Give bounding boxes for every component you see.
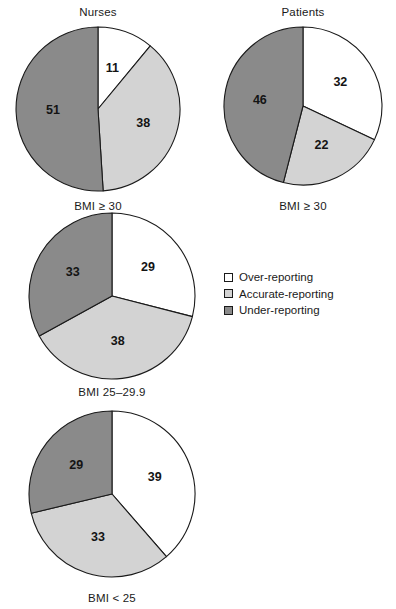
pie-slice-value: 11 bbox=[106, 61, 119, 75]
pie-chart-figure: Nurses 113851 BMI ≥ 30 Patients 322246 B… bbox=[0, 0, 396, 609]
chart-title-nurses: Nurses bbox=[8, 6, 188, 18]
chart-caption-patients: BMI ≥ 30 bbox=[218, 200, 388, 212]
pie-svg-bmi-under-25: 393329 bbox=[28, 410, 196, 578]
pie-slices-bmi-under-25 bbox=[29, 411, 195, 577]
legend-label-accurate-reporting: Accurate-reporting bbox=[239, 288, 334, 300]
chart-caption-bmi-25-29-9: BMI 25–29.9 bbox=[22, 386, 202, 398]
chart-patients-bmi-30-plus: Patients 322246 BMI ≥ 30 bbox=[218, 6, 388, 212]
pie-slice-value: 32 bbox=[333, 75, 347, 89]
chart-title-patients: Patients bbox=[218, 6, 388, 18]
legend-label-over-reporting: Over-reporting bbox=[239, 271, 313, 283]
pie-slices-bmi-25-29-9 bbox=[29, 213, 195, 379]
pie-svg-nurses: 113851 bbox=[15, 26, 181, 192]
pie-svg-bmi-25-29-9: 293833 bbox=[28, 212, 196, 380]
pie-slice-value: 51 bbox=[46, 103, 60, 117]
pie-slice-value: 22 bbox=[315, 138, 329, 152]
chart-nurses-bmi-30-plus: Nurses 113851 BMI ≥ 30 bbox=[8, 6, 188, 212]
legend-item-under-reporting: Under-reporting bbox=[224, 304, 334, 316]
pie-slice-value: 46 bbox=[253, 93, 267, 107]
legend-item-over-reporting: Over-reporting bbox=[224, 271, 334, 283]
pie-bmi-under-25: 393329 bbox=[28, 410, 196, 578]
legend-swatch-accurate-reporting bbox=[224, 289, 233, 298]
pie-slice-value: 29 bbox=[141, 260, 155, 274]
chart-legend: Over-reporting Accurate-reporting Under-… bbox=[224, 271, 334, 316]
chart-bmi-under-25: 393329 BMI < 25 bbox=[22, 404, 202, 604]
pie-bmi-25-29-9: 293833 bbox=[28, 212, 196, 380]
pie-slice-value: 33 bbox=[66, 265, 80, 279]
legend-label-under-reporting: Under-reporting bbox=[239, 304, 320, 316]
pie-patients-bmi-30-plus: 322246 bbox=[223, 26, 383, 186]
pie-nurses-bmi-30-plus: 113851 bbox=[15, 26, 181, 192]
legend-swatch-over-reporting bbox=[224, 273, 233, 282]
pie-slice-value: 38 bbox=[111, 334, 125, 348]
legend-swatch-under-reporting bbox=[224, 306, 233, 315]
chart-bmi-25-29-9: 293833 BMI 25–29.9 bbox=[22, 206, 202, 398]
pie-slices-nurses bbox=[16, 27, 180, 191]
pie-slice-value: 29 bbox=[69, 458, 83, 472]
chart-caption-bmi-under-25: BMI < 25 bbox=[22, 592, 202, 604]
pie-svg-patients: 322246 bbox=[223, 26, 383, 186]
pie-slice-value: 38 bbox=[136, 116, 150, 130]
pie-slices-patients bbox=[224, 27, 382, 185]
pie-slice-value: 39 bbox=[148, 470, 162, 484]
legend-item-accurate-reporting: Accurate-reporting bbox=[224, 288, 334, 300]
pie-slice-value: 33 bbox=[91, 530, 105, 544]
